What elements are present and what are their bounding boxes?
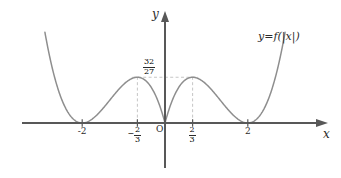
- x-tick-label-neg2: -2: [73, 127, 91, 136]
- x-tick-label-neg-two-thirds: − 2 3: [127, 126, 141, 144]
- curve-equation-label: y=f(|x|): [258, 30, 300, 43]
- x-tick-label-2: 2: [239, 127, 257, 136]
- fraction-numerator: 2: [134, 126, 141, 135]
- curve-final-layer: [0, 0, 341, 178]
- fraction-denominator: 3: [134, 135, 141, 145]
- y-axis-label: y: [152, 8, 159, 20]
- y-tick-label-32-27: 32 27: [143, 58, 155, 76]
- fraction-denominator: 3: [189, 135, 196, 145]
- fraction: 32 27: [143, 58, 155, 76]
- fraction: 2 3: [189, 126, 196, 144]
- x-axis-label: x: [323, 128, 330, 140]
- fraction-denominator: 27: [143, 67, 155, 77]
- origin-label: O: [156, 125, 163, 134]
- fraction: 2 3: [134, 126, 141, 144]
- fraction-numerator: 32: [143, 58, 155, 67]
- x-tick-label-two-thirds: 2 3: [189, 126, 196, 144]
- fraction-minus-sign: −: [127, 126, 134, 138]
- fraction-numerator: 2: [189, 126, 196, 135]
